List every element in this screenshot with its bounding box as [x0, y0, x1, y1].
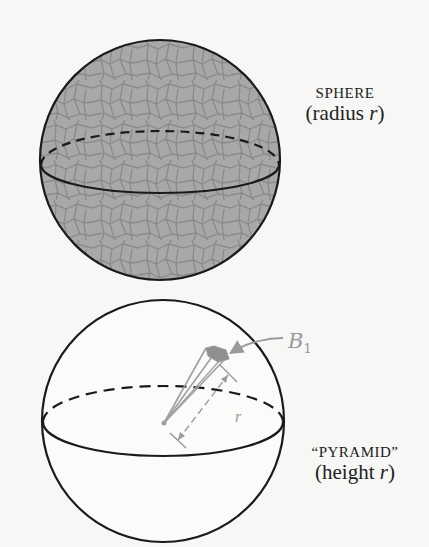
sphere-top	[40, 40, 280, 280]
sphere-title: SPHERE	[285, 86, 405, 102]
pyramid-label: “PYRAMID” (height r)	[290, 445, 420, 483]
pyramid-title: “PYRAMID”	[290, 445, 420, 461]
sphere-center-point	[162, 421, 167, 426]
pyramid-subtitle: (height r)	[290, 461, 420, 483]
sphere-bottom	[42, 300, 284, 542]
sphere-label: SPHERE (radius r)	[285, 86, 405, 124]
sphere-subtitle: (radius r)	[285, 102, 405, 124]
sphere-top-body	[40, 40, 280, 280]
height-r-label: r	[235, 408, 241, 426]
base-b1-label: B1	[288, 329, 312, 356]
